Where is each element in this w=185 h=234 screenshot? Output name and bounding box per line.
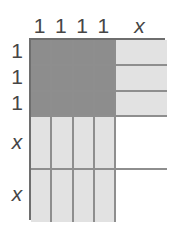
column-header-4: 1	[93, 12, 114, 38]
grid-cell	[116, 40, 167, 66]
grid-cell	[74, 66, 95, 92]
grid-cell	[31, 92, 52, 118]
row-header-5: x	[5, 168, 29, 220]
grid-cell	[95, 40, 116, 66]
row-header-2: 1	[5, 64, 29, 90]
grid-row	[31, 40, 163, 66]
grid-cell	[74, 92, 95, 118]
grid-cell	[52, 66, 73, 92]
column-header-2: 1	[50, 12, 71, 38]
grid-cell	[52, 170, 73, 222]
grid-cell	[31, 66, 52, 92]
grid-cell	[95, 117, 116, 169]
grid-cell	[31, 117, 52, 169]
grid-cell	[74, 40, 95, 66]
grid-cell	[116, 170, 167, 222]
grid-row	[31, 117, 163, 169]
grid-cell	[95, 92, 116, 118]
grid-cell	[31, 170, 52, 222]
grid-cell	[116, 92, 167, 118]
grid-cell	[95, 66, 116, 92]
grid-cell	[74, 170, 95, 222]
grid-cell	[31, 40, 52, 66]
grid-cell	[116, 117, 167, 169]
grid-row	[31, 92, 163, 118]
row-header-4: x	[5, 115, 29, 167]
grid-row	[31, 170, 163, 222]
grid-cell	[95, 170, 116, 222]
grid-cell	[52, 117, 73, 169]
row-header-1: 1	[5, 38, 29, 64]
grid-cell	[74, 117, 95, 169]
column-header-5: x	[114, 12, 165, 38]
grid-row	[31, 66, 163, 92]
row-header-3: 1	[5, 90, 29, 116]
column-header-1: 1	[29, 12, 50, 38]
column-header-row: 1 1 1 1 x	[29, 12, 165, 38]
grid-cell	[52, 40, 73, 66]
column-header-3: 1	[72, 12, 93, 38]
area-model-diagram: 1 1 1 1 x 1 1 1 x x	[0, 0, 185, 234]
grid-body	[29, 38, 165, 220]
row-header-column: 1 1 1 x x	[5, 38, 29, 220]
grid-cell	[116, 66, 167, 92]
grid-cell	[52, 92, 73, 118]
